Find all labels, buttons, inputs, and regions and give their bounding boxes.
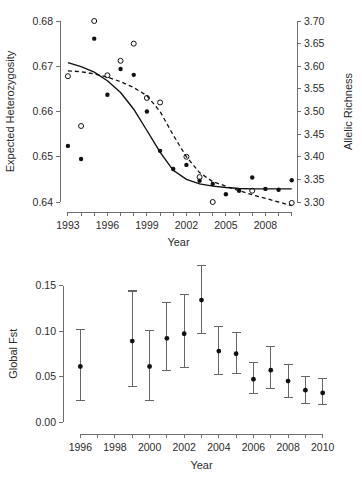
y2-axis-title-allelic-richness: Allelic Richness — [342, 72, 354, 150]
data-point-filled — [171, 167, 175, 171]
right-axis-tick-label: 3.50 — [304, 105, 325, 117]
x-axis-tick-label: 1998 — [103, 441, 127, 453]
data-point-filled — [237, 188, 241, 192]
y-axis-tick-label: 0.05 — [36, 370, 57, 382]
x-axis-tick-label: 2006 — [242, 441, 266, 453]
data-point-open — [118, 58, 123, 63]
panel-bottom-errorbar: 0.000.050.100.15Global Fst19961998200020… — [0, 248, 362, 480]
y-axis-tick-label: 0.15 — [36, 279, 57, 291]
x-axis-tick-label: 2000 — [138, 441, 162, 453]
errorbar-mean-point — [303, 388, 308, 393]
data-point-open — [79, 123, 84, 128]
errorbar-mean-point — [164, 336, 169, 341]
data-point-open — [65, 74, 70, 79]
left-axis-tick-label: 0.66 — [33, 105, 54, 117]
errorbar-group — [214, 326, 223, 374]
data-point-filled — [79, 157, 83, 161]
top-chart-svg: 0.640.650.660.670.68Expected Heterozygos… — [0, 0, 362, 248]
x-axis-tick-label: 2010 — [311, 441, 335, 453]
bottom-chart-svg: 0.000.050.100.15Global Fst19961998200020… — [0, 248, 362, 480]
x-axis-title-year: Year — [167, 236, 190, 248]
errorbar-group — [180, 295, 189, 368]
errorbar-group — [128, 291, 137, 387]
errorbar-group — [162, 303, 171, 370]
y-axis-tick-label: 0.00 — [36, 416, 57, 428]
data-point-filled — [66, 144, 70, 148]
data-point-filled — [290, 178, 294, 182]
data-point-filled — [184, 163, 188, 167]
right-axis-tick-label: 3.70 — [304, 15, 325, 27]
right-axis-tick-label: 3.35 — [304, 173, 325, 185]
right-axis-tick-label: 3.60 — [304, 60, 325, 72]
data-point-filled — [92, 36, 96, 40]
errorbar-mean-point — [251, 377, 256, 382]
trendline-heterozygosity-trend — [68, 63, 292, 189]
errorbar-mean-point — [286, 379, 291, 384]
right-axis-tick-label: 3.55 — [304, 82, 325, 94]
x-axis-tick-label: 2004 — [207, 441, 231, 453]
y-axis-title-heterozygosity: Expected Heterozygosity — [4, 50, 16, 172]
errorbar-mean-point — [216, 349, 221, 354]
left-axis-tick-label: 0.67 — [33, 60, 54, 72]
errorbar-group — [145, 330, 154, 400]
left-axis-tick-label: 0.64 — [33, 196, 54, 208]
x-axis-tick-label: 1996 — [96, 219, 120, 231]
right-axis-tick-label: 3.45 — [304, 128, 325, 140]
data-point-open — [158, 100, 163, 105]
errorbar-mean-point — [199, 298, 204, 303]
data-point-filled — [224, 192, 228, 196]
data-point-filled — [211, 182, 215, 186]
left-axis-tick-label: 0.65 — [33, 150, 54, 162]
left-axis-tick-label: 0.68 — [33, 15, 54, 27]
trendline-allelic-richness-trend — [68, 71, 292, 206]
errorbar-group — [266, 346, 275, 388]
x-axis-tick-label: 2002 — [175, 219, 199, 231]
x-axis-tick-label: 2005 — [214, 219, 238, 231]
data-point-filled — [118, 67, 122, 71]
right-axis-tick-label: 3.30 — [304, 196, 325, 208]
errorbar-group — [284, 365, 293, 398]
right-axis-tick-label: 3.40 — [304, 150, 325, 162]
x-axis-tick-label: 1996 — [69, 441, 93, 453]
y-axis-tick-label: 0.10 — [36, 325, 57, 337]
errorbar-mean-point — [130, 339, 135, 344]
errorbar-group — [249, 363, 258, 394]
data-point-filled — [276, 188, 280, 192]
data-point-open — [289, 200, 294, 205]
data-point-filled — [263, 187, 267, 191]
errorbar-group — [318, 378, 327, 404]
errorbar-group — [232, 333, 241, 374]
errorbar-group — [301, 377, 310, 404]
x-axis-tick-label: 2008 — [276, 441, 300, 453]
x-axis-tick-label: 2002 — [173, 441, 197, 453]
y-axis-title-global-fst: Global Fst — [7, 329, 19, 379]
errorbar-mean-point — [182, 331, 187, 336]
data-point-filled — [145, 109, 149, 113]
errorbar-mean-point — [78, 364, 83, 369]
errorbar-group — [76, 329, 85, 400]
data-point-open — [131, 41, 136, 46]
data-point-filled — [250, 175, 254, 179]
right-axis-tick-label: 3.65 — [304, 37, 325, 49]
x-axis-tick-label: 1993 — [56, 219, 80, 231]
x-axis-tick-label: 1999 — [135, 219, 159, 231]
data-point-filled — [132, 73, 136, 77]
errorbar-mean-point — [147, 364, 152, 369]
errorbar-mean-point — [268, 368, 273, 373]
errorbar-mean-point — [320, 390, 325, 395]
errorbar-group — [197, 266, 206, 334]
errorbar-mean-point — [234, 351, 239, 356]
data-point-open — [105, 73, 110, 78]
panel-top-scatter: 0.640.650.660.670.68Expected Heterozygos… — [0, 0, 362, 248]
data-point-filled — [158, 149, 162, 153]
data-point-filled — [105, 93, 109, 97]
x-axis-tick-label: 2008 — [254, 219, 278, 231]
data-point-open — [210, 200, 215, 205]
data-point-open — [92, 19, 97, 24]
x-axis-title-year: Year — [190, 459, 213, 471]
figure-container: 0.640.650.660.670.68Expected Heterozygos… — [0, 0, 362, 480]
